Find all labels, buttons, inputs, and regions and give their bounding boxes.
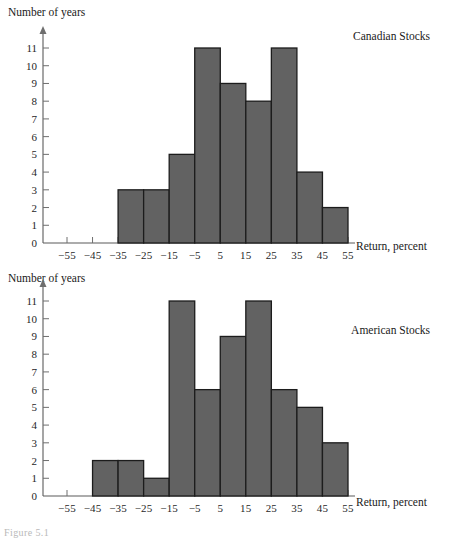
histogram-bar [297,172,323,243]
x-tick-label: −45 [84,249,102,261]
x-tick-label: −5 [189,502,201,514]
x-tick-label: −15 [160,502,178,514]
histogram-bar [118,461,144,496]
series-title-canadian: Canadian Stocks [353,30,430,42]
histogram-bar [322,443,348,496]
x-tick-label: −35 [109,502,127,514]
x-tick-label: −55 [58,249,76,261]
y-tick-label: 1 [32,219,38,231]
y-tick-label: 2 [32,455,38,467]
x-tick-label: −35 [109,249,127,261]
y-tick-label: 6 [32,131,38,143]
y-axis-arrow-icon [40,26,47,34]
histogram-bar [220,336,246,496]
histogram-bar [246,301,272,496]
y-tick-label: 0 [32,490,38,502]
x-tick-label: −45 [84,502,102,514]
y-tick-label: 8 [32,95,38,107]
x-tick-label: −5 [189,249,201,261]
histogram-bar [144,190,170,243]
x-axis-title: Return, percent [356,496,428,509]
x-tick-label: 15 [240,249,252,261]
x-tick-label: 5 [217,249,223,261]
y-tick-label: 6 [32,384,38,396]
canadian-stocks-svg: Number of years Canadian Stocks Return, … [0,0,450,268]
chart-canadian-stocks: Number of years Canadian Stocks Return, … [0,0,450,268]
x-tick-label: 25 [266,502,278,514]
y-tick-label: 11 [26,295,37,307]
x-axis-title: Return, percent [356,240,428,253]
figure-caption-stub: Figure 5.1 [4,527,49,538]
y-tick-label: 9 [32,77,38,89]
histogram-bar [93,461,119,496]
x-tick-label: 25 [266,249,278,261]
chart-american-stocks: Number of years American Stocks Return, … [0,268,450,526]
histogram-figure-page: { "figure": { "caption_stub": "Figure 5.… [0,0,450,538]
y-tick-label: 10 [26,60,38,72]
histogram-bar [271,48,297,243]
x-tick-label: 15 [240,502,252,514]
y-tick-label: 4 [32,419,38,431]
y-tick-label: 5 [32,401,38,413]
y-tick-label: 7 [32,366,38,378]
x-tick-label: 45 [317,502,329,514]
histogram-bar [195,390,221,496]
histogram-bar [144,478,170,496]
y-tick-label: 0 [32,237,38,249]
y-tick-label: 1 [32,472,38,484]
x-tick-label: −15 [160,249,178,261]
x-tick-label: 35 [291,502,303,514]
x-tick-label: −25 [135,249,153,261]
x-tick-label: 35 [291,249,303,261]
x-tick-label: −25 [135,502,153,514]
x-tick-label: −55 [58,502,76,514]
plot-area-american: 01234567891011−55−45−35−25−15−5515253545… [26,279,355,514]
y-axis-title: Number of years [8,6,86,19]
x-tick-label: 45 [317,249,329,261]
histogram-bar [322,208,348,243]
histogram-bar [169,301,195,496]
histogram-bar [220,83,246,243]
x-tick-label: 5 [217,502,223,514]
y-axis-title: Number of years [8,272,86,285]
y-tick-label: 9 [32,330,38,342]
y-tick-label: 7 [32,113,38,125]
y-tick-label: 5 [32,148,38,160]
y-tick-label: 3 [32,437,38,449]
histogram-bar [195,48,221,243]
histogram-bar [118,190,144,243]
histogram-bar [271,390,297,496]
y-tick-label: 3 [32,184,38,196]
series-title-american: American Stocks [351,324,430,336]
histogram-bar [297,407,323,496]
x-tick-label: 55 [342,249,354,261]
y-tick-label: 4 [32,166,38,178]
x-tick-label: 55 [342,502,354,514]
y-tick-label: 2 [32,202,38,214]
y-tick-label: 10 [26,313,38,325]
histogram-bar [246,101,272,243]
y-tick-label: 11 [26,42,37,54]
american-stocks-svg: Number of years American Stocks Return, … [0,268,450,526]
y-tick-label: 8 [32,348,38,360]
plot-area-canadian: 01234567891011−55−45−35−25−15−5515253545… [26,26,355,261]
histogram-bar [169,154,195,243]
